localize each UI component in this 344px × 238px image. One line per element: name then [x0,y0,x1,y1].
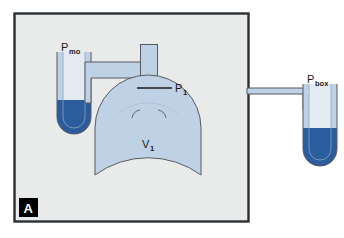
label-alveolar-pressure-symbol: P [175,82,182,94]
right-manometer [301,84,339,172]
plethysmograph-diagram: P mo [0,0,344,238]
label-mouth-pressure-subscript: mo [69,47,81,56]
label-box-pressure-subscript: box [315,79,329,88]
label-box-pressure-symbol: P [307,73,314,85]
panel-letter-badge: A [19,198,38,217]
label-alveolar-pressure-subscript: 1 [183,88,187,97]
label-lung-volume-symbol: V [142,138,150,150]
label-lung-volume-subscript: 1 [150,144,154,153]
panel-letter-text: A [24,201,34,216]
label-mouth-pressure-symbol: P [61,41,68,53]
bell-neck-seam-cover [142,104,157,116]
right-manometer-seam-cover [304,89,309,94]
figure-container: P mo [0,0,344,238]
